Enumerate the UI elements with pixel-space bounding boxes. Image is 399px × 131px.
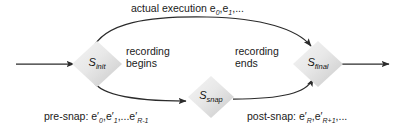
node-init-base: S (89, 56, 96, 68)
node-label-init: Sinit (72, 50, 122, 78)
label-post-snap: post-snap: e′R,e′R+1,... (247, 110, 347, 125)
snapshot-execution-diagram: Sinit Ssnap Sfinal actual execution e0,e… (0, 0, 399, 131)
lower-left-arc-pre-snap (92, 78, 186, 101)
node-final-base: S (307, 56, 314, 68)
pre-snap-prefix: pre-snap: e′ (44, 110, 99, 122)
lower-right-arc-post-snap (233, 79, 313, 99)
post-snap-tail: ,... (336, 110, 348, 122)
node-label-final: Sfinal (293, 50, 343, 78)
recording-ends-line-1: recording (235, 45, 279, 57)
recording-begins-line-2: begins (126, 57, 170, 69)
label-recording-begins: recording begins (126, 45, 170, 70)
label-actual-execution: actual execution e0,e1,... (131, 2, 244, 17)
node-init-subscript: init (96, 63, 106, 72)
node-snap-subscript: snap (207, 96, 223, 105)
post-snap-sub-1: R+1 (323, 117, 336, 124)
actual-execution-text: actual execution e (131, 2, 216, 14)
pre-snap-sep-1: ,e′ (103, 110, 114, 122)
post-snap-sep-1: ,e′ (312, 110, 323, 122)
actual-execution-tail: ,... (232, 2, 244, 14)
label-recording-ends: recording ends (235, 45, 279, 70)
actual-execution-sep: ,e (220, 2, 229, 14)
pre-snap-sep-2: ,...e′ (118, 110, 137, 122)
post-snap-prefix: post-snap: e′ (247, 110, 307, 122)
node-snap-base: S (199, 89, 206, 101)
pre-snap-sub-2: R-1 (137, 117, 148, 124)
node-label-snap: Ssnap (186, 84, 236, 110)
recording-ends-line-2: ends (235, 57, 279, 69)
recording-begins-line-1: recording (126, 45, 170, 57)
node-final-subscript: final (315, 63, 329, 72)
label-pre-snap: pre-snap: e′0,e′1,...e′R-1 (44, 110, 148, 125)
